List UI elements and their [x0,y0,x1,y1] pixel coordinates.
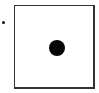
bullet-marker [2,21,5,24]
selected-dot-icon[interactable] [49,40,65,56]
